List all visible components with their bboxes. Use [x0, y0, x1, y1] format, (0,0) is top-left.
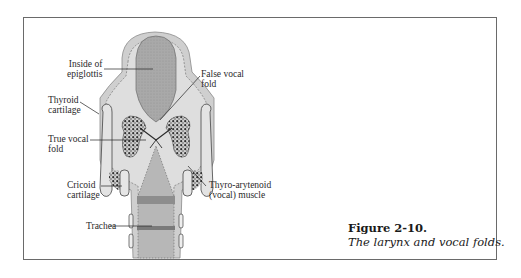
trachea-ring-1 [137, 196, 175, 204]
label-true-vocal-fold: True vocal fold [48, 134, 89, 154]
label-inside-epiglottis: Inside of epiglottis [67, 59, 102, 79]
figure-title: The larynx and vocal folds. [348, 235, 505, 249]
label-false-vocal-fold: False vocal fold [201, 69, 244, 89]
trachea-ring-2 [137, 226, 175, 230]
label-trachea: Trachea [86, 221, 116, 231]
cricoid-left [120, 170, 129, 196]
label-cricoid-cartilage: Cricoid cartilage [67, 180, 100, 200]
cricoid-right [183, 170, 192, 196]
figure-number: Figure 2-10. [348, 221, 505, 235]
figure-caption: Figure 2-10. The larynx and vocal folds. [348, 221, 505, 249]
label-thyroid-cartilage: Thyroid cartilage [48, 95, 81, 115]
label-thyro-arytenoid-muscle: Thyro-arytenoid (vocal) muscle [209, 180, 271, 200]
